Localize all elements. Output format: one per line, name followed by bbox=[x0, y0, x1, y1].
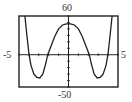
graph-window bbox=[0, 0, 132, 102]
axes bbox=[19, 16, 118, 87]
